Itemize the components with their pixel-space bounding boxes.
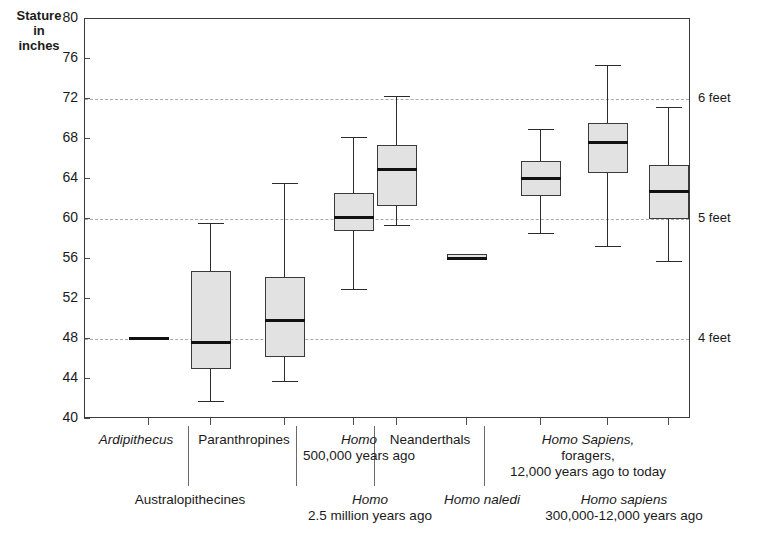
y-axis-title-line-2: in xyxy=(8,23,70,38)
lower-whisker xyxy=(396,206,397,225)
y-tick-label: 40 xyxy=(44,409,78,425)
x-tick-mark xyxy=(284,418,285,425)
lower-whisker-cap xyxy=(656,261,682,262)
median-line xyxy=(447,257,487,260)
lower-whisker-cap xyxy=(384,225,410,226)
x-axis-labels: ArdipithecusParanthropinesHomo500,000 ye… xyxy=(84,418,690,542)
x-label-name: Neanderthals xyxy=(390,432,470,447)
y-tick-label: 44 xyxy=(44,369,78,385)
x-label-line2: 2.5 million years ago xyxy=(308,508,432,523)
lower-whisker xyxy=(210,369,211,401)
x-label-name: Homo xyxy=(352,492,388,507)
box-plot xyxy=(649,19,689,419)
lower-whisker-cap xyxy=(595,246,621,247)
x-tick-mark xyxy=(668,418,669,425)
median-line xyxy=(649,190,689,193)
upper-whisker xyxy=(607,65,608,123)
lower-whisker-cap xyxy=(341,289,367,290)
x-tick-mark xyxy=(396,418,397,425)
x-tick-mark xyxy=(607,418,608,425)
lower-whisker-cap xyxy=(198,401,224,402)
box xyxy=(377,145,417,206)
upper-whisker xyxy=(210,223,211,271)
y-tick-label: 68 xyxy=(44,129,78,145)
y-tick-label: 60 xyxy=(44,209,78,225)
lower-whisker-cap xyxy=(272,381,298,382)
x-label-name: Ardipithecus xyxy=(99,432,173,447)
lower-whisker xyxy=(353,231,354,289)
y-tick-label: 52 xyxy=(44,289,78,305)
upper-whisker xyxy=(353,137,354,193)
lower-whisker-cap xyxy=(528,233,554,234)
lower-whisker xyxy=(540,196,541,233)
box xyxy=(588,123,628,173)
x-tick-mark xyxy=(466,418,467,425)
reference-label: 4 feet xyxy=(698,330,731,345)
upper-whisker-cap xyxy=(384,96,410,97)
x-label-line2: foragers, xyxy=(561,448,614,463)
reference-label: 5 feet xyxy=(698,210,731,225)
reference-label: 6 feet xyxy=(698,90,731,105)
x-tick-mark xyxy=(148,418,149,425)
x-label-top: Ardipithecus xyxy=(80,432,192,448)
box xyxy=(265,277,305,357)
box-plot xyxy=(191,19,231,419)
upper-whisker xyxy=(668,107,669,165)
x-label-name: Homo xyxy=(341,432,377,447)
plot-area xyxy=(84,18,690,418)
x-label-name: Paranthropines xyxy=(198,432,290,447)
box-plot xyxy=(265,19,305,419)
x-tick-mark xyxy=(540,418,541,425)
x-label-name: Homo Sapiens, xyxy=(542,432,634,447)
median-line xyxy=(588,141,628,144)
y-tick-label: 64 xyxy=(44,169,78,185)
median-line xyxy=(191,341,231,344)
upper-whisker-cap xyxy=(272,183,298,184)
upper-whisker xyxy=(396,96,397,145)
x-label-top: Paranthropines xyxy=(192,432,296,448)
median-line xyxy=(521,177,561,180)
y-tick-label: 76 xyxy=(44,49,78,65)
plot-inner xyxy=(85,19,689,417)
lower-whisker xyxy=(284,357,285,381)
lower-whisker xyxy=(668,219,669,261)
label-separator xyxy=(296,426,297,486)
lower-whisker xyxy=(607,173,608,246)
x-label-bottom: Australopithecines xyxy=(100,492,280,508)
box-plot xyxy=(334,19,374,419)
x-label-name: Homo naledi xyxy=(444,492,520,507)
box-plot xyxy=(377,19,417,419)
chart-root: Stature in inches 8076726864605652484440… xyxy=(0,0,774,542)
x-label-top: Neanderthals xyxy=(378,432,482,448)
y-tick-label: 48 xyxy=(44,329,78,345)
box xyxy=(334,193,374,231)
median-line xyxy=(334,216,374,219)
y-tick-label: 56 xyxy=(44,249,78,265)
y-tick-label: 72 xyxy=(44,89,78,105)
label-separator xyxy=(484,426,485,486)
x-tick-mark xyxy=(210,418,211,425)
x-label-top: Homo Sapiens,foragers,12,000 years ago t… xyxy=(486,432,690,480)
upper-whisker-cap xyxy=(595,65,621,66)
x-label-name: Homo sapiens xyxy=(581,492,667,507)
box-plot xyxy=(588,19,628,419)
x-label-bottom: Homo sapiens300,000-12,000 years ago xyxy=(518,492,730,524)
upper-whisker-cap xyxy=(341,137,367,138)
box xyxy=(191,271,231,369)
upper-whisker-cap xyxy=(656,107,682,108)
upper-whisker-cap xyxy=(528,129,554,130)
upper-whisker-cap xyxy=(198,223,224,224)
upper-whisker xyxy=(540,129,541,161)
x-label-line2: 300,000-12,000 years ago xyxy=(545,508,703,523)
x-tick-mark xyxy=(353,418,354,425)
degenerate-marker xyxy=(129,337,169,340)
y-tick-label: 80 xyxy=(44,9,78,25)
upper-whisker xyxy=(284,183,285,277)
box-plot xyxy=(521,19,561,419)
median-line xyxy=(377,168,417,171)
box-plot xyxy=(447,19,487,419)
x-label-name: Australopithecines xyxy=(135,492,245,507)
x-label-line2: 500,000 years ago xyxy=(303,448,415,463)
median-line xyxy=(265,319,305,322)
x-label-line3: 12,000 years ago to today xyxy=(510,464,666,479)
